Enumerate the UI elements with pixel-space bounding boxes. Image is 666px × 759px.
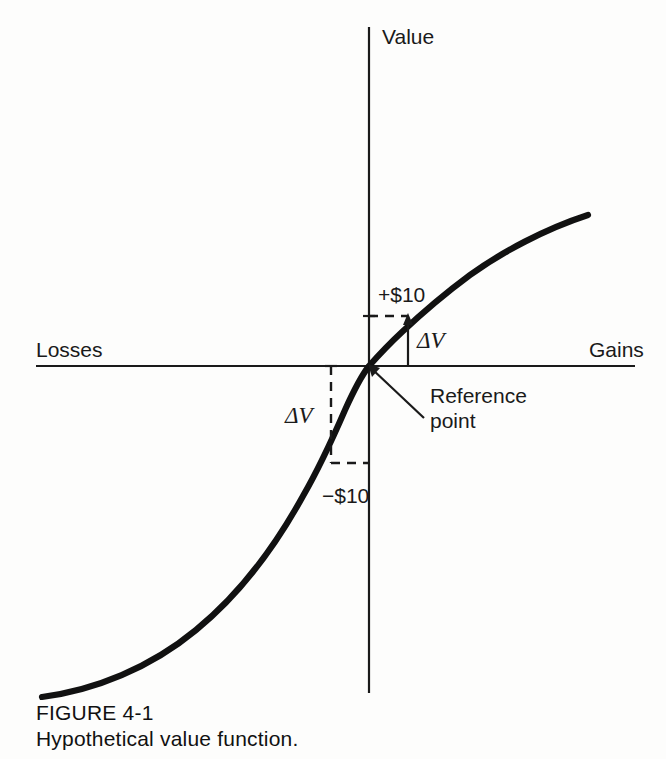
figure-caption: FIGURE 4-1 Hypothetical value function.: [36, 700, 596, 752]
y-axis-label: Value: [382, 25, 434, 48]
gain-delta-v-label: ΔV: [416, 328, 447, 353]
figure-title: Hypothetical value function.: [36, 726, 596, 752]
value-function-chart: Value Losses Gains +$10 −$10 ΔV ΔV Refer…: [0, 0, 666, 759]
losses-axis-label: Losses: [36, 338, 103, 361]
gains-axis-label: Gains: [589, 338, 644, 361]
reference-point-label-line2: point: [430, 409, 476, 432]
figure-number: FIGURE 4-1: [36, 700, 596, 726]
plus-ten-label: +$10: [378, 283, 425, 306]
value-function-curve: [42, 215, 588, 697]
reference-point-leader: [372, 369, 424, 418]
figure-container: Value Losses Gains +$10 −$10 ΔV ΔV Refer…: [0, 0, 666, 759]
minus-ten-label: −$10: [322, 484, 369, 507]
loss-delta-v-label: ΔV: [284, 403, 315, 428]
reference-point-label-line1: Reference: [430, 384, 527, 407]
